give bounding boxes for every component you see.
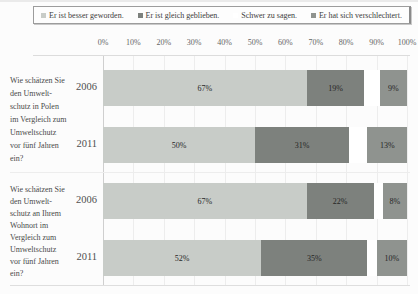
- year-label: 2011: [53, 251, 97, 262]
- x-axis-tick: 0%: [98, 38, 109, 47]
- x-axis-tick: 100%: [398, 38, 417, 47]
- bar-segment: 52%: [103, 240, 261, 276]
- legend-label: Er hat sich verschlechtert.: [319, 11, 402, 20]
- x-axis-tick: 70%: [308, 38, 323, 47]
- x-axis-tick: 80%: [339, 38, 354, 47]
- legend-label: Schwer zu sagen.: [241, 11, 297, 20]
- bar-segment: 35%: [261, 240, 367, 276]
- bar-segment: 31%: [255, 127, 349, 163]
- legend-swatch-1: [41, 13, 46, 18]
- bar-segment: 22%: [307, 183, 374, 219]
- chart-figure: Er ist besser geworden.Er ist gleich geb…: [0, 0, 418, 294]
- legend-swatch-2: [138, 13, 143, 18]
- legend: Er ist besser geworden.Er ist gleich geb…: [33, 6, 411, 24]
- x-axis-tick: 30%: [187, 38, 202, 47]
- plot-bottom-border: [10, 285, 410, 286]
- group-separator: [10, 172, 410, 173]
- bar-row: 50%31%13%: [103, 127, 407, 163]
- legend-item: Er ist besser geworden.: [41, 11, 124, 20]
- legend-item: Er ist gleich geblieben.: [138, 11, 220, 20]
- legend-swatch-4: [311, 13, 316, 18]
- x-axis-tick: 50%: [248, 38, 263, 47]
- x-axis-tick: 20%: [156, 38, 171, 47]
- bar-segment: [364, 70, 379, 106]
- bar-segment: [367, 240, 376, 276]
- x-axis-tick: 10%: [126, 38, 141, 47]
- bar-segment: 13%: [367, 127, 407, 163]
- x-axis-tick: 60%: [278, 38, 293, 47]
- legend-label: Er ist besser geworden.: [49, 11, 124, 20]
- scan-page-edge: [0, 0, 418, 2]
- year-label: 2011: [53, 138, 97, 149]
- bar-segment: 67%: [103, 183, 307, 219]
- legend-item: Schwer zu sagen.: [233, 11, 297, 20]
- year-label: 2006: [53, 81, 97, 92]
- bar-segment: 8%: [383, 183, 407, 219]
- legend-swatch-3: [233, 13, 238, 18]
- bar-row: 67%19%9%: [103, 70, 407, 106]
- legend-label: Er ist gleich geblieben.: [146, 11, 220, 20]
- bar-segment: 50%: [103, 127, 255, 163]
- bar-row: 67%22%8%: [103, 183, 407, 219]
- bar-segment: 19%: [307, 70, 365, 106]
- year-label: 2006: [53, 194, 97, 205]
- x-axis-tick: 90%: [369, 38, 384, 47]
- bar-segment: 10%: [377, 240, 407, 276]
- bar-segment: 67%: [103, 70, 307, 106]
- bar-segment: 9%: [380, 70, 407, 106]
- gridline: [407, 56, 408, 285]
- plot-top-border: [33, 55, 410, 56]
- x-axis-tick: 40%: [217, 38, 232, 47]
- bar-row: 52%35%10%: [103, 240, 407, 276]
- bar-segment: [349, 127, 367, 163]
- bar-segment: [374, 183, 383, 219]
- legend-item: Er hat sich verschlechtert.: [311, 11, 402, 20]
